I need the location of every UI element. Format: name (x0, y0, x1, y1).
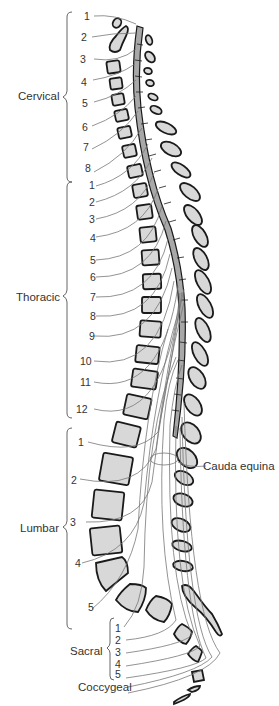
cervical-number: 2 (81, 32, 87, 43)
lumbar-brace (63, 428, 72, 629)
sacral-brace (107, 618, 114, 680)
lumbar-number: 4 (75, 558, 81, 569)
cervical-label: Cervical (18, 91, 60, 103)
cervical-number: 6 (82, 122, 88, 133)
sacral-number: 5 (115, 669, 121, 680)
thoracic-number: 1 (89, 180, 95, 191)
sacral-label: Sacral (70, 646, 103, 658)
cervical-number: 5 (82, 98, 88, 109)
lumbar-number: 3 (70, 517, 76, 528)
spine-diagram (0, 0, 279, 706)
thoracic-number: 8 (90, 311, 96, 322)
sacral-number: 1 (115, 623, 121, 634)
cervical-number: 1 (84, 11, 90, 22)
sacral-number: 3 (115, 647, 121, 658)
thoracic-number: 2 (89, 197, 95, 208)
cervical-number: 4 (81, 77, 87, 88)
thoracic-number: 10 (80, 356, 92, 367)
cauda-equina-label: Cauda equina (203, 461, 275, 473)
lumbar-label: Lumbar (20, 523, 59, 535)
cervical-number: 8 (85, 163, 91, 174)
thoracic-number: 12 (76, 404, 88, 415)
coccygeal-label: Coccygeal (78, 682, 132, 694)
sacral-number: 2 (115, 635, 121, 646)
cauda-equina-marker (150, 453, 178, 465)
cervical-number: 7 (83, 142, 89, 153)
thoracic-number: 6 (90, 272, 96, 283)
cervical-number: 3 (80, 54, 86, 65)
thoracic-number: 4 (90, 233, 96, 244)
thoracic-brace (63, 182, 72, 418)
thoracic-number: 11 (80, 377, 91, 388)
lumbar-number: 5 (88, 602, 94, 613)
thoracic-label: Thoracic (16, 292, 60, 304)
lumbar-number: 1 (78, 437, 84, 448)
thoracic-number: 5 (90, 255, 96, 266)
thoracic-number: 9 (89, 331, 95, 342)
lumbar-number: 2 (71, 475, 77, 486)
thoracic-number: 3 (89, 214, 95, 225)
thoracic-number: 7 (90, 292, 96, 303)
cervical-brace (63, 12, 72, 182)
